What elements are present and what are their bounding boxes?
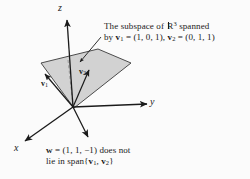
span-annotation-suffix: spanned <box>177 21 210 31</box>
vector-v2-label: v2 <box>79 67 86 77</box>
subspace-plane <box>41 49 131 108</box>
vector-v1-subscript: 1 <box>45 82 48 88</box>
w-annotation-span-prefix: lie in span{ <box>46 156 89 166</box>
span-annotation-by: by <box>104 32 116 42</box>
span-annotation-prefix: The subspace of <box>104 21 166 31</box>
w-annotation-w-symbol: w <box>46 145 53 155</box>
figure-canvas: z y x v1 v2 The subspace of R3 spanned b… <box>0 0 250 179</box>
w-annotation-line-1: w = (1, 1, −1) does not <box>46 145 130 156</box>
w-annotation-value: = (1, 1, −1) does not <box>53 145 131 155</box>
y-axis <box>73 104 147 107</box>
vector-w-arrow <box>73 107 88 137</box>
x-axis-label: x <box>14 142 18 154</box>
vector-v2-subscript: 2 <box>83 70 86 76</box>
span-annotation-line-1: The subspace of R3 spanned <box>104 20 215 32</box>
w-annotation-line-2: lie in span{v1, v2} <box>46 156 130 167</box>
w-annotation-span-suffix: } <box>109 156 113 166</box>
real-numbers-symbol: R <box>166 21 173 32</box>
x-axis <box>25 107 73 141</box>
span-annotation-line-2: by v1 = (1, 0, 1), v2 = (0, 1, 1) <box>104 32 215 43</box>
y-axis-label: y <box>150 96 154 108</box>
span-annotation-v2-value: = (0, 1, 1) <box>175 32 214 42</box>
z-axis-label: z <box>58 2 62 14</box>
span-annotation: The subspace of R3 spanned by v1 = (1, 0… <box>104 20 215 42</box>
w-annotation: w = (1, 1, −1) does not lie in span{v1, … <box>46 145 130 166</box>
span-annotation-v1-value: = (1, 0, 1), <box>124 32 168 42</box>
vector-v1-label: v1 <box>41 79 48 89</box>
